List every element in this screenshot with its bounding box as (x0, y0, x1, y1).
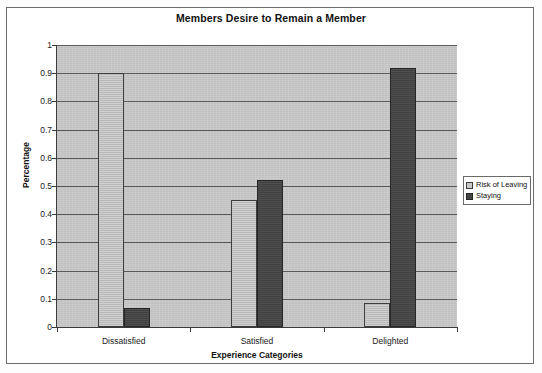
y-tick-mark (52, 186, 57, 187)
legend-swatch-icon (466, 193, 473, 200)
y-tick-mark (52, 73, 57, 74)
y-tick-mark (52, 299, 57, 300)
legend-label: Risk of Leaving (476, 181, 527, 189)
y-axis-title: Percentage (21, 125, 31, 205)
x-category-label: Dissatisfied (64, 336, 184, 346)
legend-swatch-icon (466, 182, 473, 189)
y-tick-mark (52, 130, 57, 131)
y-tick-mark (52, 271, 57, 272)
y-tick-label: 0.1 (6, 295, 52, 303)
y-tick-mark (52, 101, 57, 102)
y-tick-label: 0.3 (6, 238, 52, 246)
y-tick-label: 1 (6, 41, 52, 49)
plot-area (57, 45, 457, 327)
bar-dissatisfied-staying (124, 308, 150, 327)
x-axis-line (56, 327, 458, 328)
y-tick-mark (52, 242, 57, 243)
gridline (57, 45, 457, 46)
bar-satisfied-risk-of-leaving (231, 200, 257, 327)
bar-delighted-staying (390, 68, 416, 327)
x-tick-mark (324, 327, 325, 332)
x-tick-mark (457, 327, 458, 332)
legend-item: Staying (466, 191, 527, 201)
y-tick-label: 0.8 (6, 97, 52, 105)
legend-item: Risk of Leaving (466, 180, 527, 190)
chart-title: Members Desire to Remain a Member (0, 12, 542, 24)
legend-label: Staying (476, 192, 501, 200)
x-category-label: Delighted (330, 336, 450, 346)
x-tick-mark (190, 327, 191, 332)
bar-delighted-risk-of-leaving (364, 303, 390, 327)
bar-satisfied-staying (257, 180, 283, 327)
y-tick-label: 0 (6, 323, 52, 331)
y-tick-label: 0.2 (6, 267, 52, 275)
y-tick-mark (52, 45, 57, 46)
chart-legend: Risk of LeavingStaying (463, 176, 531, 205)
y-tick-label: 0.9 (6, 69, 52, 77)
x-axis-title: Experience Categories (57, 350, 457, 360)
y-tick-mark (52, 158, 57, 159)
y-tick-label: 0.4 (6, 210, 52, 218)
y-tick-mark (52, 214, 57, 215)
bar-dissatisfied-risk-of-leaving (98, 73, 124, 327)
chart-page: Members Desire to Remain a Member 00.10.… (0, 0, 542, 373)
x-tick-mark (57, 327, 58, 332)
x-category-label: Satisfied (197, 336, 317, 346)
